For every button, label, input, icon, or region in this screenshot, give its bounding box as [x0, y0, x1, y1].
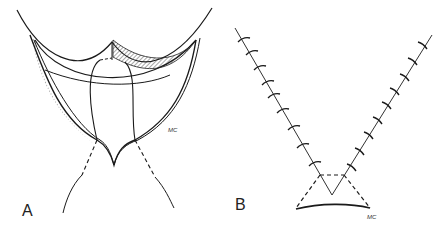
panel-label-a: A — [22, 202, 33, 220]
panel-label-b: B — [235, 196, 246, 214]
signature-a: MC — [168, 127, 177, 133]
flap-illustration-a — [0, 0, 230, 225]
panel-a: A MC — [0, 0, 230, 225]
signature-b: MC — [367, 214, 376, 220]
suture-illustration-b — [220, 0, 443, 225]
panel-b: B MC — [220, 0, 443, 225]
